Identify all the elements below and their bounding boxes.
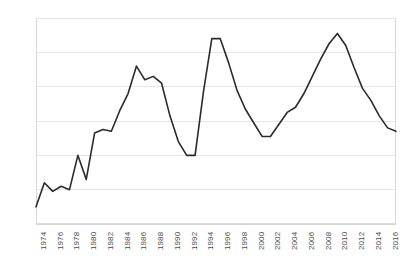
x-axis-tick-label: 1976 [56, 232, 65, 250]
x-axis-tick-label: 1992 [190, 232, 199, 250]
x-axis-labels-group: 1974197619781980198219841986198819901992… [0, 0, 413, 261]
x-axis-tick-label: 2010 [340, 232, 349, 250]
x-axis-tick-label: 1984 [123, 232, 132, 250]
x-axis-tick-label: 1996 [223, 232, 232, 250]
x-axis-tick-label: 1990 [173, 232, 182, 250]
x-axis-tick-label: 1974 [39, 232, 48, 250]
x-axis-tick-label: 2014 [374, 232, 383, 250]
x-axis-tick-label: 2002 [273, 232, 282, 250]
x-axis-tick-label: 2008 [324, 232, 333, 250]
x-axis-tick-label: 1994 [206, 232, 215, 250]
x-axis-tick-label: 1980 [89, 232, 98, 250]
x-axis-tick-label: 1978 [72, 232, 81, 250]
line-chart: 0%2%4%6%8%10%12% 19741976197819801982198… [0, 0, 413, 261]
x-axis-tick-label: 2000 [257, 232, 266, 250]
x-axis-tick-label: 2016 [391, 232, 400, 250]
x-axis-tick-label: 2012 [357, 232, 366, 250]
x-axis-tick-label: 1998 [240, 232, 249, 250]
x-axis-tick-label: 2006 [307, 232, 316, 250]
x-axis-tick-label: 1986 [139, 232, 148, 250]
x-axis-tick-label: 1982 [106, 232, 115, 250]
x-axis-tick-label: 2004 [290, 232, 299, 250]
x-axis-tick-label: 1988 [156, 232, 165, 250]
